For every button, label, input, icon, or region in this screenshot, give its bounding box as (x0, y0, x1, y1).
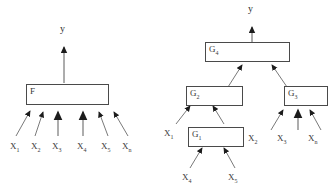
function-box-G4[interactable]: G4 (205, 42, 290, 62)
input-label-x1-left: X1 (10, 141, 20, 151)
right-output-label: y (248, 4, 253, 14)
function-box-G2[interactable]: G2 (186, 86, 243, 106)
function-box-G4-label: G4 (209, 43, 219, 55)
input-label-x4-left: X4 (77, 141, 87, 151)
function-box-G3[interactable]: G3 (284, 86, 328, 106)
input-label-x1-right: X1 (164, 128, 174, 138)
g2-input-arrows (176, 106, 224, 124)
function-box-F-label: F (30, 85, 35, 97)
input-label-x2-left: X2 (31, 141, 41, 151)
g3-input-arrows (271, 110, 321, 130)
figure-canvas: y F X1 X2 X3 X4 X5 Xn y G4 G2 G3 G1 X1 X… (0, 0, 328, 193)
function-box-G1[interactable]: G1 (188, 127, 244, 147)
function-box-F[interactable]: F (26, 84, 109, 105)
function-box-G2-label: G2 (190, 87, 200, 99)
input-label-xn-left: Xn (122, 141, 132, 151)
input-label-x4-right: X4 (182, 172, 192, 182)
input-label-x2-right: X2 (248, 133, 258, 143)
g1-input-arrows (190, 148, 235, 168)
input-label-x5-right: X5 (228, 172, 238, 182)
function-box-G1-label: G1 (192, 128, 202, 140)
input-label-xn-right: Xn (308, 133, 318, 143)
left-output-label: y (60, 24, 65, 34)
left-input-arrows (16, 111, 128, 136)
input-label-x3-left: X3 (52, 141, 62, 151)
input-label-x5-left: X5 (101, 141, 111, 151)
function-box-G3-label: G3 (288, 87, 298, 99)
input-label-x3-right: X3 (277, 133, 287, 143)
right-mid-arrows (228, 65, 287, 87)
